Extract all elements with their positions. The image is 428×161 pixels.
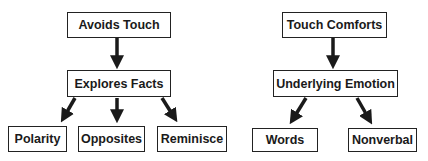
node-avoids-touch: Avoids Touch xyxy=(67,12,171,38)
node-label: Words xyxy=(266,133,305,147)
node-label: Underlying Emotion xyxy=(276,77,395,91)
node-reminisce: Reminisce xyxy=(157,126,227,152)
node-label: Avoids Touch xyxy=(78,18,159,32)
node-label: Touch Comforts xyxy=(287,18,383,32)
node-explores-facts: Explores Facts xyxy=(67,70,171,97)
node-label: Polarity xyxy=(15,132,61,146)
node-label: Reminisce xyxy=(161,132,224,146)
node-nonverbal: Nonverbal xyxy=(348,128,417,152)
node-label: Opposites xyxy=(81,132,142,146)
arrow-emotion-to-words xyxy=(293,98,306,119)
node-underlying-emotion: Underlying Emotion xyxy=(273,70,398,97)
node-label: Explores Facts xyxy=(75,77,164,91)
node-words: Words xyxy=(252,128,318,152)
node-label: Nonverbal xyxy=(352,133,413,147)
arrow-emotion-to-nonverbal xyxy=(357,98,369,119)
arrow-explores-to-polarity xyxy=(64,98,75,117)
node-polarity: Polarity xyxy=(8,126,67,152)
node-touch-comforts: Touch Comforts xyxy=(282,12,387,38)
node-opposites: Opposites xyxy=(78,126,145,152)
arrow-explores-to-reminisce xyxy=(162,98,174,117)
